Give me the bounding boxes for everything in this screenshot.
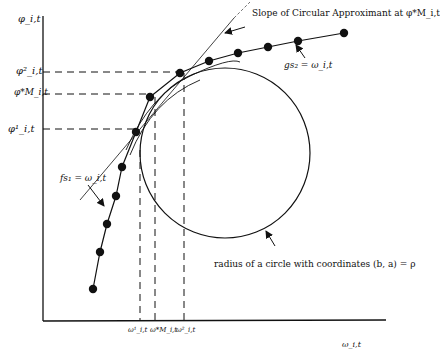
f-curve bbox=[93, 97, 150, 289]
x-axis bbox=[43, 320, 386, 321]
f-arrow bbox=[88, 185, 104, 206]
x-axis-label: ω_i,t bbox=[342, 341, 361, 349]
circular-approximant bbox=[140, 68, 310, 238]
y-axis-label: φ_i,t bbox=[18, 14, 40, 24]
radius-annotation: radius of a circle with coordinates (b, … bbox=[214, 260, 415, 269]
x-tick-omega2: ω²_i,t bbox=[176, 327, 195, 334]
radius-arrow bbox=[266, 231, 275, 246]
slope-annotation: Slope of Circular Approximant at φ*M_i,t bbox=[252, 9, 440, 18]
y-tick-phi1: φ¹_i,t bbox=[8, 124, 34, 134]
g-curve-annotation: gs₂ = ω_i,t bbox=[284, 61, 332, 70]
y-tick-phiM: φ*M_i,t bbox=[14, 88, 48, 97]
f-curve-annotation: fs₁ = ω_i,t bbox=[60, 174, 106, 183]
tangent-line-ext bbox=[234, 2, 250, 18]
y-tick-phi2: φ²_i,t bbox=[16, 66, 42, 76]
x-tick-omega1: ω¹_i,t bbox=[128, 327, 147, 334]
g-arrow bbox=[296, 45, 305, 58]
x-tick-omegaM: ω*M_i,t bbox=[150, 327, 177, 334]
slope-arrow bbox=[225, 27, 245, 33]
